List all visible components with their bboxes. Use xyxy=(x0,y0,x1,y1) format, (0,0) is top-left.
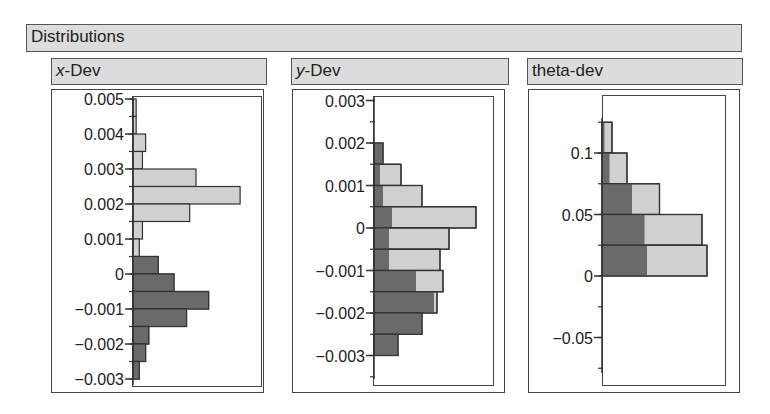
histogram-bar-selected xyxy=(602,184,632,215)
axis-tick-label: −0.05 xyxy=(553,330,594,347)
axis-tick-label: 0 xyxy=(584,268,593,285)
histogram-bar-selected xyxy=(602,215,645,246)
theta-dev-histogram: 0.10.050−0.05 xyxy=(0,0,770,414)
histogram-bar-selected xyxy=(602,153,610,184)
axis-tick-label: 0.05 xyxy=(562,207,593,224)
histogram-bar-selected xyxy=(602,245,647,276)
axis-tick-label: 0.1 xyxy=(571,145,593,162)
